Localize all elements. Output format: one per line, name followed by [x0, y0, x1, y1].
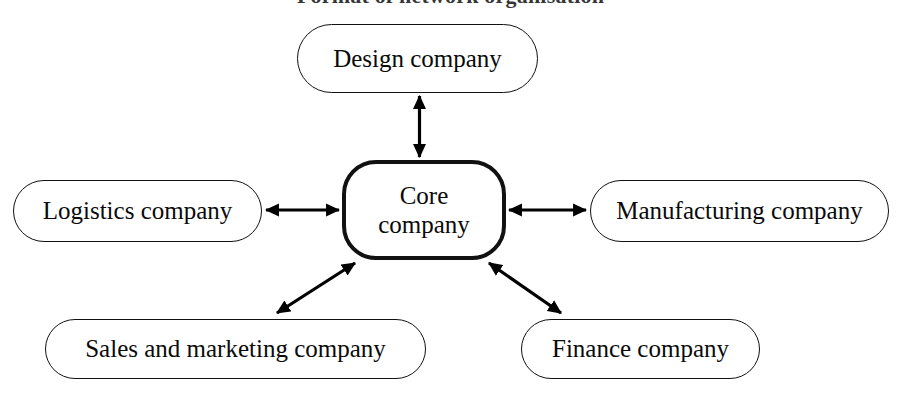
node-core-company[interactable]: Core company [342, 160, 506, 260]
node-sales-and-marketing-company-label: Sales and marketing company [81, 336, 390, 362]
node-manufacturing-company-label: Manufacturing company [612, 198, 866, 224]
network-organisation-diagram: Format of network organisation Design co… [0, 0, 901, 404]
node-manufacturing-company[interactable]: Manufacturing company [590, 180, 889, 242]
arrow-core-sales [277, 263, 355, 313]
node-finance-company[interactable]: Finance company [521, 319, 760, 379]
node-logistics-company[interactable]: Logistics company [13, 180, 262, 242]
node-finance-company-label: Finance company [548, 336, 733, 362]
node-design-company[interactable]: Design company [297, 24, 538, 93]
node-core-company-label: Core company [374, 181, 474, 239]
arrow-core-finance [489, 263, 561, 313]
diagram-title-clip: Format of network organisation [0, 0, 901, 9]
node-logistics-company-label: Logistics company [39, 198, 237, 224]
node-sales-and-marketing-company[interactable]: Sales and marketing company [45, 319, 426, 379]
node-design-company-label: Design company [329, 46, 506, 72]
page-title: Format of network organisation [0, 0, 901, 9]
